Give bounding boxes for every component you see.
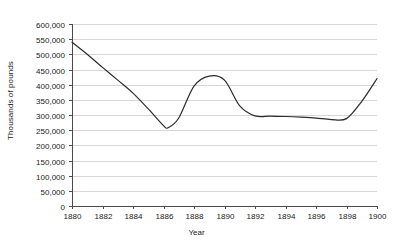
y-tick-label: 350,000 bbox=[36, 97, 65, 106]
x-tick-label: 1892 bbox=[247, 212, 265, 221]
x-tick-label: 1890 bbox=[217, 212, 235, 221]
x-tick-label: 1898 bbox=[339, 212, 357, 221]
x-tick-label: 1900 bbox=[369, 212, 387, 221]
y-tick-label: 150,000 bbox=[36, 158, 65, 167]
chart-plot-area: 050,000100,000150,000200,000250,000300,0… bbox=[0, 0, 393, 252]
y-tick-label: 550,000 bbox=[36, 36, 65, 45]
x-tick-label: 1884 bbox=[125, 212, 143, 221]
axis-tick-marks bbox=[69, 25, 378, 210]
y-tick-label: 50,000 bbox=[41, 188, 66, 197]
x-tick-label: 1880 bbox=[64, 212, 82, 221]
x-tick-label: 1888 bbox=[186, 212, 204, 221]
x-tick-label: 1886 bbox=[156, 212, 174, 221]
gridlines bbox=[72, 25, 377, 192]
x-tick-label: 1882 bbox=[95, 212, 113, 221]
y-tick-label: 200,000 bbox=[36, 142, 65, 151]
y-tick-label: 250,000 bbox=[36, 127, 65, 136]
y-axis-tick-labels: 050,000100,000150,000200,000250,000300,0… bbox=[36, 21, 65, 212]
y-tick-label: 300,000 bbox=[36, 112, 65, 121]
x-axis-tick-labels: 1880188218841886188818901892189418961898… bbox=[64, 212, 387, 221]
x-tick-label: 1894 bbox=[278, 212, 296, 221]
y-tick-label: 0 bbox=[61, 203, 66, 212]
y-tick-label: 600,000 bbox=[36, 21, 65, 30]
x-axis-title: Year bbox=[0, 228, 393, 237]
y-tick-label: 400,000 bbox=[36, 82, 65, 91]
x-tick-label: 1896 bbox=[308, 212, 326, 221]
y-tick-label: 500,000 bbox=[36, 51, 65, 60]
y-tick-label: 450,000 bbox=[36, 67, 65, 76]
y-tick-label: 100,000 bbox=[36, 173, 65, 182]
line-chart: Thousands of pounds 050,000100,000150,00… bbox=[0, 0, 393, 252]
